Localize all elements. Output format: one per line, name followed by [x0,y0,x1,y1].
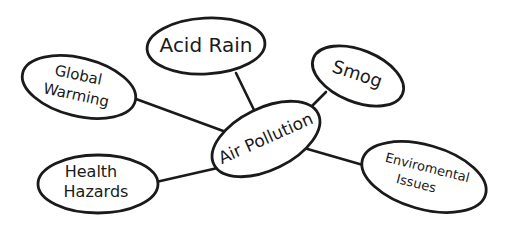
edge-acid-rain [236,73,254,110]
node-label: Acid Rain [160,33,253,57]
node-health-hazards: Health Hazards [38,155,158,213]
node-air-pollution: Air Pollution [200,86,331,193]
node-enviromental-issues: Enviromental Issues [354,129,495,226]
edge-global-warming [136,99,226,132]
edge-health-hazards [156,167,222,182]
node-global-warming: Global Warming [16,45,143,129]
concept-map: Acid Rain Global Warming Smog Air Pollut… [0,0,506,228]
edge-enviromental-issues [304,148,363,165]
node-acid-rain: Acid Rain [146,15,267,77]
node-smog: Smog [304,34,412,118]
node-label-line1: Health [65,162,118,181]
node-label-line2: Hazards [64,182,129,201]
